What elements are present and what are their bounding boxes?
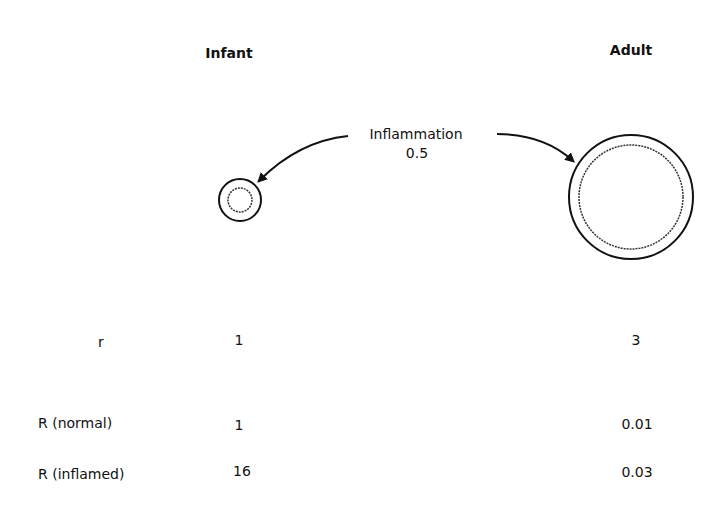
- infant-resistance-normal-value: 1: [235, 417, 244, 433]
- inflammation-label: Inflammation: [369, 126, 462, 142]
- column-header-infant: Infant: [205, 45, 252, 61]
- row-label-resistance-inflamed: R (inflamed): [38, 466, 124, 482]
- column-header-adult: Adult: [610, 42, 652, 58]
- arrow-to-adult-icon: [497, 134, 572, 160]
- inflammation-value: 0.5: [406, 145, 428, 161]
- row-label-resistance-normal: R (normal): [38, 415, 112, 431]
- adult-airway-icon: [569, 135, 693, 259]
- infant-resistance-inflamed-value: 16: [233, 463, 251, 479]
- adult-radius-value: 3: [632, 332, 641, 348]
- row-label-radius: r: [98, 334, 104, 350]
- infant-radius-value: 1: [235, 332, 244, 348]
- adult-resistance-inflamed-value: 0.03: [621, 464, 652, 480]
- infant-airway-icon: [219, 179, 261, 221]
- adult-resistance-normal-value: 0.01: [621, 416, 652, 432]
- arrow-to-infant-icon: [260, 136, 348, 180]
